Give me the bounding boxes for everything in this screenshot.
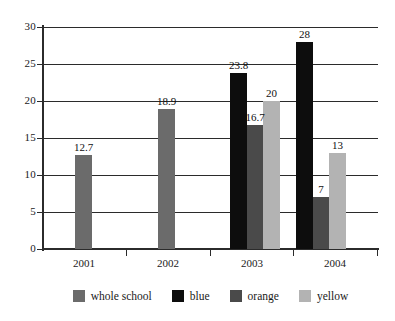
legend-swatch-orange (230, 290, 242, 302)
x-tick-label-2004: 2004 (305, 257, 365, 270)
x-tick-mark-2002 (210, 250, 211, 256)
legend-label-whole-school: whole school (91, 290, 152, 302)
x-tick-mark-2003 (293, 250, 294, 256)
legend-label-yellow: yellow (317, 290, 348, 302)
bar-value-label-2004-blue: 28 (283, 28, 327, 40)
bar-value-label-2001-whole-school: 12.7 (62, 141, 106, 153)
legend-swatch-blue (172, 290, 184, 302)
x-tick-mark-2001 (126, 250, 127, 256)
legend-item-yellow[interactable]: yellow (299, 290, 348, 302)
legend-item-whole-school[interactable]: whole school (73, 290, 152, 302)
x-tick-mark-2004 (377, 250, 378, 256)
chart-legend: whole school blue orange yellow (43, 286, 378, 306)
bar-value-label-2004-yellow: 13 (316, 139, 360, 151)
bar-value-label-2003-orange: 16.7 (233, 111, 277, 123)
bar-value-label-2002-whole-school: 18.9 (145, 95, 189, 107)
bar-value-label-2003-yellow: 20 (250, 87, 294, 99)
bar-value-labels: 12.718.923.816.72028713 (0, 0, 395, 321)
legend-item-blue[interactable]: blue (172, 290, 210, 302)
bar-value-label-2003-blue: 23.8 (217, 59, 261, 71)
legend-label-blue: blue (190, 290, 210, 302)
bar-value-label-2004-orange: 7 (299, 183, 343, 195)
legend-swatch-whole-school (73, 290, 85, 302)
bar-chart-figure: 30 25 20 15 10 5 0 12.718.923.816.720287… (0, 0, 395, 321)
legend-swatch-yellow (299, 290, 311, 302)
legend-label-orange: orange (248, 290, 279, 302)
x-tick-label-2002: 2002 (138, 257, 198, 270)
x-tick-label-2001: 2001 (54, 257, 114, 270)
legend-item-orange[interactable]: orange (230, 290, 279, 302)
x-tick-label-2003: 2003 (222, 257, 282, 270)
